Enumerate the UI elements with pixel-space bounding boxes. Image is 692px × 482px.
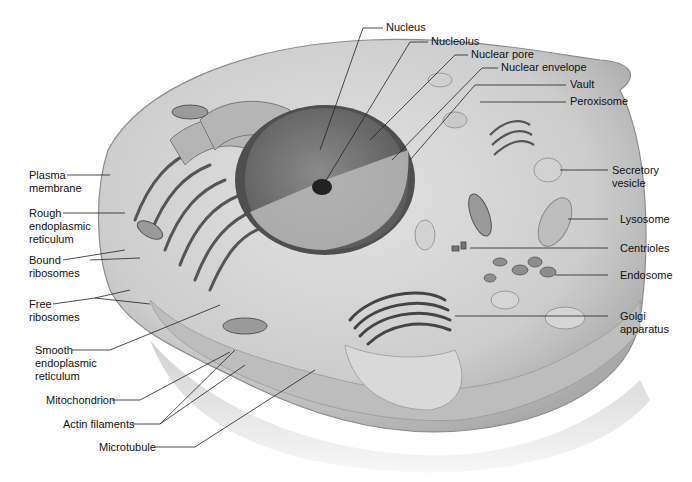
label-free-ribosomes: Free ribosomes <box>29 298 80 324</box>
label-rough-er: Rough endoplasmic reticulum <box>29 207 91 246</box>
label-bound-ribosomes: Bound ribosomes <box>29 254 80 280</box>
label-nuclear-pore: Nuclear pore <box>471 48 534 61</box>
label-secretory-vesicle: Secretory vesicle <box>612 164 659 190</box>
peroxisome <box>428 73 452 87</box>
secretory-vesicle <box>534 158 562 182</box>
label-mitochondrion: Mitochondrion <box>46 394 115 407</box>
label-smooth-er: Smooth endoplasmic reticulum <box>35 344 97 383</box>
label-actin-filaments: Actin filaments <box>63 418 135 431</box>
label-nucleolus: Nucleolus <box>431 35 479 48</box>
label-endosome: Endosome <box>620 269 673 282</box>
label-plasma-membrane: Plasma membrane <box>29 169 82 195</box>
cell-illustration <box>0 0 692 482</box>
label-nuclear-envelope: Nuclear envelope <box>501 61 587 74</box>
label-nucleus: Nucleus <box>386 21 426 34</box>
label-microtubule: Microtubule <box>99 441 156 454</box>
label-peroxisome: Peroxisome <box>570 95 628 108</box>
label-vault: Vault <box>570 78 594 91</box>
label-lysosome: Lysosome <box>620 213 670 226</box>
label-centrioles: Centrioles <box>620 242 670 255</box>
label-golgi-apparatus: Golgi apparatus <box>620 310 669 336</box>
